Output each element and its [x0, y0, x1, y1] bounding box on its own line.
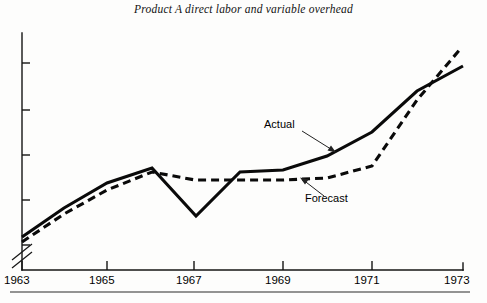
- x-tick-label-1965: 1965: [89, 274, 115, 286]
- series-line-forecast: [22, 47, 462, 242]
- x-tick-label-1963: 1963: [4, 274, 30, 286]
- line-chart-plot: [0, 0, 487, 303]
- x-axis-ticks: [22, 261, 372, 270]
- chart-figure: Product A direct labor and variable over…: [0, 0, 487, 303]
- x-tick-label-1967: 1967: [176, 274, 202, 286]
- x-tick-label-1971: 1971: [354, 274, 380, 286]
- series-label-forecast: Forecast: [305, 192, 348, 204]
- series-label-actual: Actual: [264, 118, 295, 130]
- actual-leader-line: [302, 131, 336, 153]
- x-tick-label-1969: 1969: [265, 274, 291, 286]
- y-axis-ticks: [22, 63, 30, 245]
- series-line-actual: [22, 66, 463, 237]
- x-tick-label-1973: 1973: [444, 274, 470, 286]
